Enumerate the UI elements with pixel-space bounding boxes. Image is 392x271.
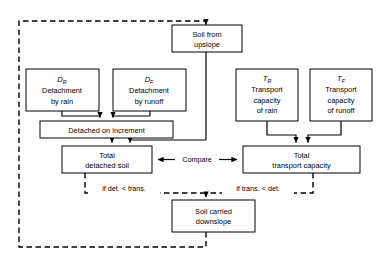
- node-transport-capacity-rain: TR Transport capacity of rain: [236, 69, 298, 121]
- flowchart-canvas: Soil from upslope DR Detachment by rain …: [0, 0, 392, 271]
- soil-carried-downslope-box: [172, 200, 255, 232]
- total-transport-capacity-line2: transport capacity: [272, 161, 331, 170]
- soil-from-upslope-line2: upslope: [194, 40, 220, 49]
- node-detachment-by-runoff: DF Detachment by runoff: [113, 69, 186, 111]
- if-trans-lt-det-label-group: if trans. < det.: [222, 182, 294, 194]
- node-detachment-by-rain: DR Detachment by rain: [26, 69, 99, 111]
- transport-capacity-rain-line1: Transport: [251, 85, 282, 94]
- total-transport-capacity-line1: Total: [294, 151, 310, 160]
- soil-carried-downslope-line2: downslope: [196, 217, 231, 226]
- if-det-lt-trans-label-group: if det. < trans.: [88, 182, 160, 194]
- transport-capacity-rain-line2: capacity: [253, 96, 280, 105]
- detachment-by-runoff-line2: by runoff: [135, 97, 165, 106]
- node-total-transport-capacity: Total transport capacity: [243, 146, 360, 173]
- transport-capacity-runoff-line2: capacity: [327, 96, 354, 105]
- detachment-by-rain-line2: by rain: [51, 97, 73, 106]
- transport-capacity-runoff-line3: of runoff: [328, 106, 356, 115]
- if-trans-lt-det-label: if trans. < det.: [236, 184, 280, 193]
- total-detached-soil-line2: detached soil: [85, 161, 129, 170]
- node-soil-from-upslope: Soil from upslope: [172, 25, 242, 52]
- detachment-by-runoff-line1: Detachment: [129, 86, 169, 95]
- soil-carried-downslope-line1: Soil carried: [195, 207, 232, 216]
- train-to-total-transport-edge: [267, 121, 296, 143]
- node-soil-carried-downslope: Soil carried downslope: [172, 200, 255, 232]
- transport-capacity-rain-line3: of rain: [257, 106, 278, 115]
- node-transport-capacity-runoff: TF Transport capacity of runoff: [310, 69, 372, 121]
- node-total-detached-soil: Total detached soil: [62, 146, 152, 173]
- transport-capacity-runoff-line1: Transport: [325, 85, 356, 94]
- compare-label-group: Compare: [175, 153, 219, 166]
- node-detached-on-increment: Detached on increment: [40, 121, 173, 138]
- flowchart-diagram: Soil from upslope DR Detachment by rain …: [0, 0, 392, 271]
- drain-to-increment-edge: [62, 111, 100, 118]
- soil-from-upslope-line1: Soil from: [192, 30, 221, 39]
- compare-label: Compare: [182, 155, 212, 164]
- total-detached-soil-line1: Total: [99, 151, 115, 160]
- if-det-lt-trans-label: if det. < trans.: [102, 184, 146, 193]
- drunoff-to-increment-edge: [113, 111, 150, 118]
- detached-on-increment-label: Detached on increment: [68, 126, 144, 135]
- trunoff-to-total-transport-edge: [308, 121, 341, 143]
- detachment-by-rain-line1: Detachment: [42, 86, 82, 95]
